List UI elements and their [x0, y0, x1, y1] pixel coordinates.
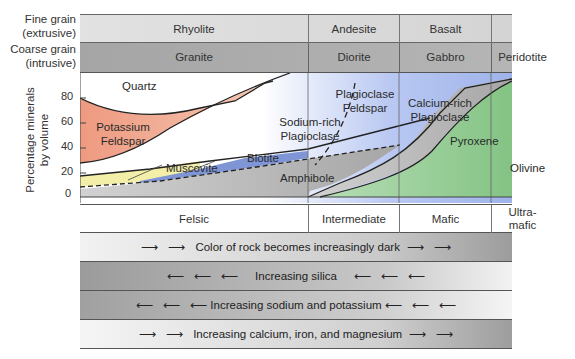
rock-andesite: Andesite: [308, 15, 399, 43]
label-olivine: Olivine: [510, 162, 545, 174]
rock-extrusive-ultramafic: [491, 15, 553, 43]
label-na-plag-line2: Plagioclase: [270, 129, 350, 143]
trend-sodium-potassium: ⟵ ⟵ ⟵ Increasing sodium and potassium ⟵ …: [80, 291, 512, 320]
arrow-left-icon: ⟵: [221, 269, 238, 283]
coarse-grain-label-line2: (intrusive): [26, 56, 76, 70]
rock-gabbro: Gabbro: [399, 43, 491, 72]
coarse-grain-label-line1: Coarse grain: [10, 42, 76, 56]
y-tick-40: 40: [61, 140, 73, 152]
composition-intermediate: Intermediate: [308, 205, 399, 233]
label-potassium-feldspar-line2: Feldspar: [88, 134, 158, 148]
fine-grain-label-line1: Fine grain: [25, 12, 76, 26]
rock-rhyolite: Rhyolite: [80, 15, 308, 43]
label-pyroxene: Pyroxene: [450, 135, 499, 147]
arrow-left-icon: ⟵: [381, 269, 398, 283]
label-plagioclase-feldspar: Plagioclase Feldspar: [330, 87, 400, 115]
rock-granite: Granite: [80, 43, 308, 72]
arrow-right-icon: ⟶: [434, 240, 451, 254]
composition-ultramafic: Ultra- mafic: [491, 205, 553, 233]
rock-peridotite: Peridotite: [491, 43, 553, 72]
arrow-right-icon: ⟶: [166, 327, 183, 341]
arrow-left-icon: ⟵: [385, 298, 402, 312]
trend-label: Increasing sodium and potassium: [210, 299, 381, 311]
rock-basalt: Basalt: [399, 15, 491, 43]
arrow-right-icon: ⟶: [139, 327, 156, 341]
arrow-right-icon: ⟶: [436, 327, 453, 341]
label-calcium-rich-plagioclase: Calcium-rich Plagioclase: [400, 96, 480, 124]
trend-label: Color of rock becomes increasingly dark: [195, 241, 400, 253]
arrow-left-icon: ⟵: [136, 298, 153, 312]
label-biotite: Biotite: [247, 152, 279, 164]
y-tick-0: 0: [65, 187, 71, 199]
y-axis-title-line1: Percentage minerals: [23, 70, 37, 210]
coarse-grain-label: Coarse grain (intrusive): [0, 42, 76, 72]
arrow-left-icon: ⟵: [163, 298, 180, 312]
label-potassium-feldspar: Potassium Feldspar: [88, 120, 158, 148]
arrow-right-icon: ⟶: [168, 240, 185, 254]
trend-calcium-iron-magnesium: ⟶ ⟶ Increasing calcium, iron, and magnes…: [80, 320, 512, 349]
arrow-left-icon: ⟵: [439, 298, 456, 312]
rock-diorite: Diorite: [308, 43, 399, 72]
arrow-right-icon: ⟶: [407, 240, 424, 254]
composition-mafic: Mafic: [399, 205, 491, 233]
arrow-left-icon: ⟵: [408, 269, 425, 283]
label-plag-line1: Plagioclase: [330, 87, 400, 101]
extrusive-row: Rhyolite Andesite Basalt: [80, 14, 512, 43]
y-tick-80: 80: [61, 90, 73, 102]
trend-label: Increasing calcium, iron, and magnesium: [193, 328, 402, 340]
label-ca-plag-line2: Plagioclase: [400, 110, 480, 124]
label-muscovite: Muscovite: [166, 162, 218, 174]
arrow-left-icon: ⟵: [194, 269, 211, 283]
label-sodium-rich-plagioclase: Sodium-rich Plagioclase: [270, 115, 350, 143]
composition-row: Felsic Intermediate Mafic Ultra- mafic: [80, 204, 512, 233]
trend-silica: ⟵ ⟵ ⟵ Increasing silica ⟵ ⟵ ⟵: [80, 262, 512, 291]
composition-felsic: Felsic: [80, 205, 308, 233]
y-axis-title: Percentage minerals by volume: [23, 70, 53, 210]
ultramafic-line1: Ultra-: [508, 206, 536, 219]
trend-label: Increasing silica: [255, 270, 337, 282]
label-ca-plag-line1: Calcium-rich: [400, 96, 480, 110]
fine-grain-label: Fine grain (extrusive): [0, 12, 76, 42]
y-tick-20: 20: [61, 165, 73, 177]
label-na-plag-line1: Sodium-rich: [270, 115, 350, 129]
intrusive-row: Granite Diorite Gabbro Peridotite: [80, 43, 512, 73]
trend-color-darkness: ⟶ ⟶ Color of rock becomes increasingly d…: [80, 233, 512, 262]
label-plag-line2: Feldspar: [330, 101, 400, 115]
arrow-left-icon: ⟵: [412, 298, 429, 312]
label-quartz: Quartz: [122, 80, 157, 92]
fine-grain-label-line2: (extrusive): [22, 26, 76, 40]
arrow-left-icon: ⟵: [190, 298, 207, 312]
arrow-right-icon: ⟶: [409, 327, 426, 341]
ultramafic-line2: mafic: [509, 219, 536, 232]
arrow-right-icon: ⟶: [141, 240, 158, 254]
label-amphibole: Amphibole: [280, 172, 334, 184]
arrow-left-icon: ⟵: [354, 269, 371, 283]
arrow-left-icon: ⟵: [167, 269, 184, 283]
label-potassium-feldspar-line1: Potassium: [88, 120, 158, 134]
y-axis-title-line2: by volume: [37, 70, 51, 210]
y-tick-60: 60: [61, 115, 73, 127]
